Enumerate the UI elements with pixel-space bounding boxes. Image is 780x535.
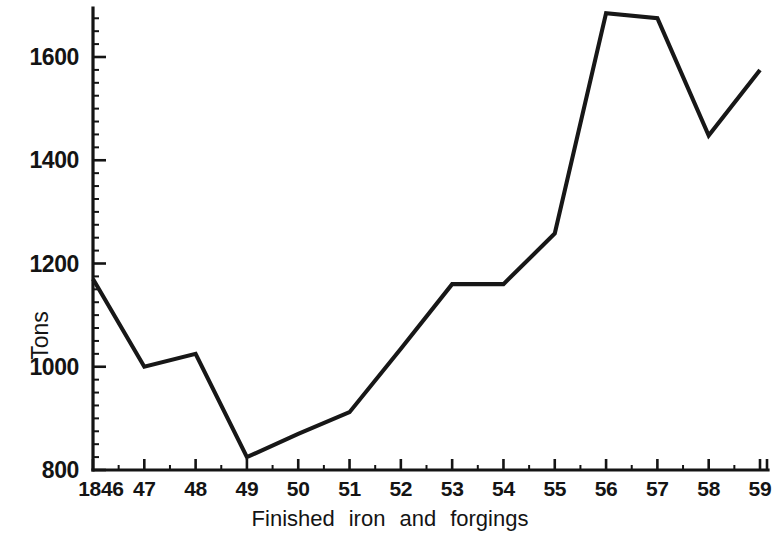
y-axis-tick-label: 1400: [7, 147, 79, 174]
x-axis-tick-label: 58: [697, 477, 720, 501]
x-axis-tick-label: 1846: [78, 477, 124, 501]
x-axis-tick-label: 55: [543, 477, 566, 501]
x-axis-tick-label: 56: [595, 477, 618, 501]
y-axis-tick-label: 1600: [7, 44, 79, 71]
x-axis-tick-label: 47: [133, 477, 156, 501]
x-axis-tick-label: 52: [389, 477, 412, 501]
chart-axes: [93, 8, 768, 470]
data-series-line: [93, 13, 760, 457]
x-axis-title-word: and: [399, 506, 436, 531]
x-axis-title-word: Finished: [252, 506, 335, 531]
x-axis-tick-label: 49: [236, 477, 259, 501]
x-axis-tick-label: 48: [184, 477, 207, 501]
x-axis-tick-label: 57: [646, 477, 669, 501]
y-axis-tick-label: 1200: [7, 250, 79, 277]
x-axis-tick-label: 51: [338, 477, 361, 501]
y-axis-title: Tons: [27, 286, 54, 386]
x-axis-title-word: iron: [349, 506, 386, 531]
y-axis-tick-label: 800: [7, 457, 79, 484]
chart-ticks: [93, 18, 760, 470]
x-axis-tick-label: 54: [492, 477, 515, 501]
x-axis-tick-label: 53: [441, 477, 464, 501]
x-axis-title-word: forgings: [450, 506, 528, 531]
line-chart: 8001000120014001600 18464748495051525354…: [0, 0, 780, 535]
x-axis-title: Finishedironandforgings: [0, 506, 780, 532]
x-axis-tick-label: 50: [287, 477, 310, 501]
x-axis-tick-label: 59: [749, 477, 772, 501]
chart-canvas: [0, 0, 780, 535]
